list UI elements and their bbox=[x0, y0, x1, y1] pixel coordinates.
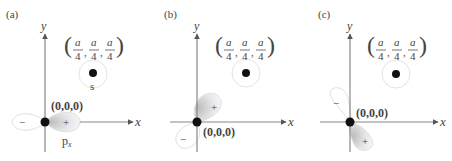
svg-text:): ) bbox=[419, 32, 427, 58]
origin-label: (0,0,0) bbox=[51, 99, 83, 113]
panel-label-a: (a) bbox=[6, 8, 19, 21]
svg-text:(: ( bbox=[215, 32, 223, 58]
panel-label-b: (b) bbox=[164, 8, 177, 21]
plus-sign: + bbox=[211, 101, 217, 113]
origin-atom bbox=[346, 118, 355, 127]
svg-text:,: , bbox=[251, 46, 254, 58]
plus-sign: + bbox=[362, 135, 368, 147]
svg-text:4: 4 bbox=[226, 50, 232, 62]
svg-text:a: a bbox=[75, 36, 81, 48]
svg-text:): ) bbox=[116, 32, 124, 58]
svg-text:4: 4 bbox=[378, 50, 384, 62]
panel-a: (a) y x (0,0,0) − + px s ( a 4 , a 4 bbox=[6, 8, 141, 152]
s-site-coordinates: ( a 4 , a 4 , a 4 ) bbox=[215, 32, 275, 62]
s-atom bbox=[242, 69, 250, 77]
orbital-diagram: (a) y x (0,0,0) − + px s ( a 4 , a 4 bbox=[0, 0, 452, 161]
svg-text:4: 4 bbox=[258, 50, 264, 62]
minus-sign: − bbox=[333, 97, 339, 109]
svg-text:a: a bbox=[91, 36, 97, 48]
s-site-coordinates: ( a 4 , a 4 , a 4 ) bbox=[64, 32, 124, 62]
svg-text:): ) bbox=[267, 32, 275, 58]
panel-label-c: (c) bbox=[318, 8, 331, 21]
svg-text:,: , bbox=[387, 46, 390, 58]
svg-text:a: a bbox=[242, 36, 248, 48]
s-label: s bbox=[90, 80, 94, 92]
svg-text:a: a bbox=[410, 36, 416, 48]
origin-atom bbox=[193, 118, 202, 127]
svg-text:(: ( bbox=[367, 32, 375, 58]
origin-label: (0,0,0) bbox=[203, 125, 235, 139]
svg-text:4: 4 bbox=[394, 50, 400, 62]
svg-text:a: a bbox=[226, 36, 232, 48]
svg-text:a: a bbox=[107, 36, 113, 48]
y-axis-label: y bbox=[193, 19, 200, 33]
svg-text:(: ( bbox=[64, 32, 72, 58]
plus-sign: + bbox=[63, 116, 69, 128]
s-site-coordinates: ( a 4 , a 4 , a 4 ) bbox=[367, 32, 427, 62]
svg-text:a: a bbox=[378, 36, 384, 48]
svg-text:,: , bbox=[235, 46, 238, 58]
x-axis-label: x bbox=[439, 114, 446, 129]
svg-text:,: , bbox=[100, 46, 103, 58]
minus-sign: − bbox=[180, 133, 186, 145]
panel-b: (b) y x (0,0,0) + − ( a 4 , a 4 , a 4 ) bbox=[164, 8, 294, 152]
svg-text:,: , bbox=[84, 46, 87, 58]
y-axis-label: y bbox=[346, 19, 353, 33]
svg-text:4: 4 bbox=[75, 50, 81, 62]
y-axis-label: y bbox=[40, 19, 47, 33]
svg-text:4: 4 bbox=[410, 50, 416, 62]
svg-text:a: a bbox=[258, 36, 264, 48]
minus-sign: − bbox=[19, 116, 25, 128]
panel-c: (c) y x (0,0,0) − + ( a 4 , a 4 , a 4 ) bbox=[318, 8, 446, 152]
svg-text:4: 4 bbox=[107, 50, 113, 62]
svg-text:4: 4 bbox=[242, 50, 248, 62]
x-axis-label: x bbox=[134, 114, 141, 129]
origin-label: (0,0,0) bbox=[356, 106, 388, 120]
s-atom bbox=[89, 69, 97, 77]
svg-text:a: a bbox=[394, 36, 400, 48]
orbital-label: px bbox=[62, 134, 72, 149]
x-axis-label: x bbox=[287, 114, 294, 129]
s-atom bbox=[392, 70, 400, 78]
origin-atom bbox=[41, 118, 50, 127]
minus-lobe bbox=[12, 114, 45, 131]
svg-text:,: , bbox=[403, 46, 406, 58]
svg-text:4: 4 bbox=[91, 50, 97, 62]
